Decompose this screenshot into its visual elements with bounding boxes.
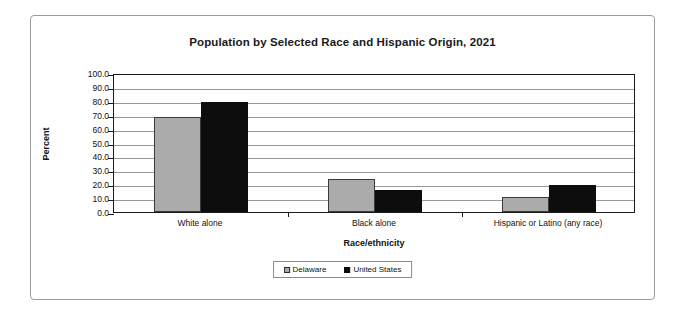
y-axis-tick-mark [108, 200, 114, 201]
bar-group [502, 75, 596, 212]
y-axis-tick-label: 70.0 [49, 111, 109, 121]
y-axis-tick-mark [108, 172, 114, 173]
bar-delaware-1[interactable] [328, 179, 375, 212]
figure-frame: Population by Selected Race and Hispanic… [30, 15, 655, 300]
y-axis-tick-label: 50.0 [49, 139, 109, 149]
y-axis-tick-label: 10.0 [49, 194, 109, 204]
bar-united-states-0[interactable] [201, 102, 248, 212]
y-axis-tick-label: 0.0 [49, 208, 109, 218]
x-axis-tick-mark [288, 212, 289, 217]
legend-label: Delaware [293, 265, 327, 274]
y-axis-tick-mark [108, 158, 114, 159]
y-axis-tick-mark [108, 103, 114, 104]
y-axis-tick-mark [108, 89, 114, 90]
y-axis-tick-label: 40.0 [49, 152, 109, 162]
y-axis-tick-label: 90.0 [49, 83, 109, 93]
x-axis-tick-mark [462, 212, 463, 217]
chart-title: Population by Selected Race and Hispanic… [31, 36, 654, 48]
bar-delaware-2[interactable] [502, 197, 549, 212]
chart-legend: DelawareUnited States [273, 261, 413, 278]
x-axis-category-label: Black alone [287, 218, 461, 228]
y-axis-tick-label: 80.0 [49, 97, 109, 107]
legend-item[interactable]: United States [344, 265, 401, 274]
bar-delaware-0[interactable] [154, 117, 201, 212]
plot-area [113, 74, 635, 213]
y-axis-tick-label: 100.0 [49, 69, 109, 79]
y-axis-tick-mark [108, 117, 114, 118]
y-axis-tick-mark [108, 75, 114, 76]
y-axis-tick-label: 60.0 [49, 125, 109, 135]
bar-group [328, 75, 422, 212]
legend-label: United States [353, 265, 401, 274]
x-axis-category-label: Hispanic or Latino (any race) [461, 218, 635, 228]
y-axis-tick-label: 20.0 [49, 180, 109, 190]
y-axis-tick-mark [108, 131, 114, 132]
y-axis-tick-mark [108, 214, 114, 215]
y-axis-tick-labels: 100.090.080.070.060.050.040.030.020.010.… [49, 74, 109, 213]
bar-group [154, 75, 248, 212]
x-axis-category-label: White alone [113, 218, 287, 228]
y-axis-tick-mark [108, 186, 114, 187]
y-axis-tick-mark [108, 145, 114, 146]
legend-item[interactable]: Delaware [284, 265, 327, 274]
x-axis-title: Race/ethnicity [113, 238, 635, 248]
legend-swatch-icon [284, 267, 290, 273]
bar-united-states-2[interactable] [549, 185, 596, 212]
legend-swatch-icon [344, 267, 350, 273]
y-axis-tick-label: 30.0 [49, 166, 109, 176]
bar-united-states-1[interactable] [375, 190, 422, 212]
